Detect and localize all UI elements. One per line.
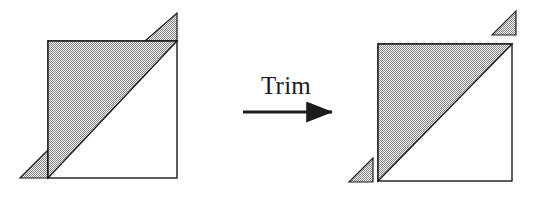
diagram-canvas (0, 0, 538, 207)
trim-diagram: Trim (0, 0, 538, 207)
operation-label: Trim (244, 72, 328, 100)
